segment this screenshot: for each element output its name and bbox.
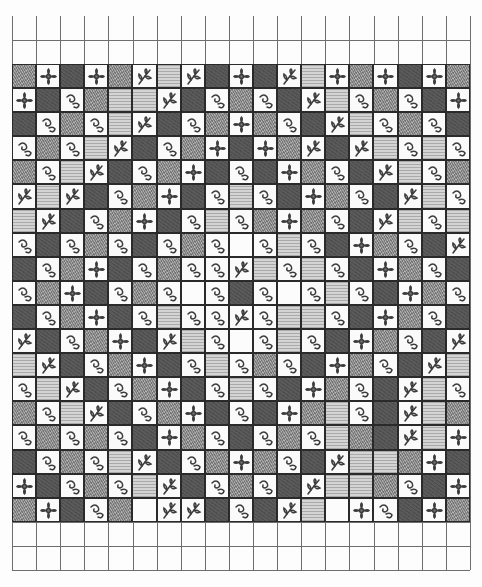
swirl-icon xyxy=(208,91,227,110)
swirl-tile xyxy=(181,112,205,136)
leaf-icon xyxy=(449,236,468,255)
dark-solid-tile xyxy=(12,257,36,281)
swirl-icon xyxy=(184,115,203,134)
dark-solid-tile xyxy=(108,401,132,425)
swirl-tile xyxy=(205,257,229,281)
swirl-tile xyxy=(181,450,205,474)
gray-texture-tile xyxy=(373,474,397,498)
dark-solid-tile xyxy=(325,233,349,257)
swirl-icon xyxy=(425,260,444,279)
flower-icon xyxy=(184,404,203,423)
swirl-tile xyxy=(181,257,205,281)
swirl-tile xyxy=(157,136,181,160)
dark-solid-tile xyxy=(422,233,446,257)
dark-solid-tile xyxy=(12,450,36,474)
swirl-icon xyxy=(401,332,420,351)
gray-texture-tile xyxy=(422,281,446,305)
flower-tile xyxy=(181,160,205,184)
gray-texture-tile xyxy=(301,160,325,184)
light-texture-tile xyxy=(108,112,132,136)
swirl-tile xyxy=(181,353,205,377)
leaf-tile xyxy=(12,184,36,208)
dark-solid-tile xyxy=(349,257,373,281)
swirl-tile xyxy=(60,425,84,449)
swirl-icon xyxy=(232,404,251,423)
leaf-tile xyxy=(301,474,325,498)
light-texture-tile xyxy=(12,353,36,377)
gray-texture-tile xyxy=(325,377,349,401)
swirl-icon xyxy=(39,163,58,182)
dark-solid-tile xyxy=(422,329,446,353)
swirl-tile xyxy=(253,184,277,208)
light-texture-tile xyxy=(349,112,373,136)
gray-texture-tile xyxy=(229,474,253,498)
light-texture-tile xyxy=(301,257,325,281)
swirl-tile xyxy=(253,88,277,112)
dark-solid-tile xyxy=(301,450,325,474)
gray-texture-tile xyxy=(398,112,422,136)
leaf-icon xyxy=(160,477,179,496)
swirl-icon xyxy=(208,284,227,303)
flower-tile xyxy=(157,425,181,449)
empty-tile xyxy=(277,281,301,305)
swirl-tile xyxy=(277,353,301,377)
gray-texture-tile xyxy=(36,281,60,305)
swirl-tile xyxy=(325,305,349,329)
leaf-icon xyxy=(39,212,58,231)
light-texture-tile xyxy=(325,425,349,449)
swirl-tile xyxy=(205,474,229,498)
swirl-icon xyxy=(376,356,395,375)
gray-texture-tile xyxy=(205,450,229,474)
dark-solid-tile xyxy=(205,160,229,184)
swirl-icon xyxy=(208,332,227,351)
leaf-tile xyxy=(398,401,422,425)
flower-tile xyxy=(12,474,36,498)
gray-texture-tile xyxy=(253,353,277,377)
dark-solid-tile xyxy=(349,305,373,329)
empty-tile xyxy=(181,281,205,305)
leaf-tile xyxy=(373,209,397,233)
light-texture-tile xyxy=(157,305,181,329)
gray-texture-tile xyxy=(60,305,84,329)
gray-texture-tile xyxy=(205,112,229,136)
flower-icon xyxy=(280,163,299,182)
swirl-tile xyxy=(325,257,349,281)
flower-icon xyxy=(184,163,203,182)
gray-texture-tile xyxy=(325,184,349,208)
gray-texture-tile xyxy=(301,209,325,233)
flower-tile xyxy=(373,64,397,88)
dark-solid-tile xyxy=(205,401,229,425)
flower-icon xyxy=(232,115,251,134)
leaf-icon xyxy=(304,139,323,158)
swirl-icon xyxy=(425,212,444,231)
leaf-icon xyxy=(425,356,444,375)
dark-solid-tile xyxy=(36,88,60,112)
swirl-icon xyxy=(328,212,347,231)
flower-tile xyxy=(373,257,397,281)
light-texture-tile xyxy=(422,401,446,425)
leaf-tile xyxy=(181,64,205,88)
leaf-icon xyxy=(135,115,154,134)
gray-texture-tile xyxy=(12,64,36,88)
flower-tile xyxy=(349,329,373,353)
swirl-tile xyxy=(84,450,108,474)
flower-tile xyxy=(60,281,84,305)
dark-solid-tile xyxy=(398,64,422,88)
light-texture-tile xyxy=(181,329,205,353)
dark-solid-tile xyxy=(253,401,277,425)
swirl-tile xyxy=(349,377,373,401)
flower-tile xyxy=(157,184,181,208)
swirl-tile xyxy=(205,184,229,208)
swirl-tile xyxy=(301,329,325,353)
dark-solid-tile xyxy=(398,498,422,522)
flower-tile xyxy=(84,305,108,329)
swirl-tile xyxy=(422,160,446,184)
flower-tile xyxy=(446,425,470,449)
gray-texture-tile xyxy=(373,233,397,257)
swirl-icon xyxy=(256,187,275,206)
leaf-tile xyxy=(36,209,60,233)
flower-icon xyxy=(425,67,444,86)
light-texture-tile xyxy=(301,305,325,329)
swirl-icon xyxy=(184,308,203,327)
swirl-tile xyxy=(373,498,397,522)
